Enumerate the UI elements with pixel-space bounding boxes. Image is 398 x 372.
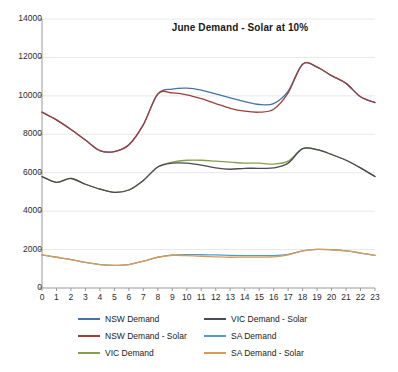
legend-label: VIC Demand - Solar (231, 314, 307, 324)
y-axis-tick-label: 6000 (2, 167, 42, 177)
y-axis-tick-label: 8000 (2, 128, 42, 138)
x-axis-tick-label: 12 (209, 292, 223, 302)
axis-lines (42, 19, 375, 288)
y-axis-tick-label: 10000 (2, 90, 42, 100)
chart-container: June Demand - Solar at 10% 0200040006000… (0, 0, 398, 372)
x-axis-tick-label: 16 (267, 292, 281, 302)
y-axis-tick-label: 14000 (2, 13, 42, 23)
x-axis-tick-label: 21 (339, 292, 353, 302)
legend-color-swatch (78, 318, 100, 320)
x-axis-tick-label: 7 (136, 292, 150, 302)
series-line-nsw-demand (42, 63, 375, 153)
legend-label: SA Demand (231, 331, 276, 341)
legend-item-nsw-demand[interactable]: NSW Demand (78, 310, 198, 327)
series-line-vic-demand (42, 148, 375, 192)
y-axis-tick-label: 12000 (2, 51, 42, 61)
x-axis-tick-label: 5 (107, 292, 121, 302)
x-axis-tick-label: 3 (78, 292, 92, 302)
legend-color-swatch (204, 335, 226, 337)
x-axis-tick-label: 4 (93, 292, 107, 302)
x-axis-tick-label: 20 (325, 292, 339, 302)
legend-label: SA Demand - Solar (231, 348, 304, 358)
series-line-sa-demand-solar (42, 249, 375, 265)
gridlines (42, 19, 375, 250)
y-axis-tick-label: 0 (2, 282, 42, 292)
legend-color-swatch (78, 335, 100, 337)
series-line-nsw-demand-solar (42, 62, 375, 152)
x-axis-tick-label: 22 (354, 292, 368, 302)
legend-color-swatch (78, 352, 100, 354)
legend-item-nsw-demand-solar[interactable]: NSW Demand - Solar (78, 327, 198, 344)
x-axis-tick-label: 1 (49, 292, 63, 302)
legend-label: NSW Demand (105, 314, 159, 324)
legend-color-swatch (204, 352, 226, 354)
legend-color-swatch (204, 318, 226, 320)
legend-item-vic-demand-solar[interactable]: VIC Demand - Solar (204, 310, 354, 327)
x-axis-tick-label: 9 (165, 292, 179, 302)
legend-label: NSW Demand - Solar (105, 331, 187, 341)
x-axis-tick-label: 17 (281, 292, 295, 302)
x-axis-tick-label: 8 (151, 292, 165, 302)
x-axis-tick-label: 23 (368, 292, 382, 302)
x-axis-tick-label: 10 (180, 292, 194, 302)
x-axis-tick-label: 11 (194, 292, 208, 302)
x-axis-tick-label: 18 (296, 292, 310, 302)
legend-label: VIC Demand (105, 348, 154, 358)
x-axis-tick-label: 19 (310, 292, 324, 302)
x-axis-tick-label: 0 (35, 292, 49, 302)
x-axis-tick-label: 2 (64, 292, 78, 302)
x-axis-tick-label: 14 (238, 292, 252, 302)
legend-item-sa-demand[interactable]: SA Demand (204, 327, 354, 344)
legend-item-vic-demand[interactable]: VIC Demand (78, 344, 198, 361)
y-axis-tick-label: 2000 (2, 244, 42, 254)
x-axis-tick-label: 6 (122, 292, 136, 302)
x-axis-tick-label: 13 (223, 292, 237, 302)
axis-ticks (39, 19, 375, 291)
chart-title: June Demand - Solar at 10% (120, 22, 360, 33)
x-axis-tick-label: 15 (252, 292, 266, 302)
chart-legend: NSW DemandVIC Demand - SolarNSW Demand -… (78, 310, 378, 361)
series-line-vic-demand-solar (42, 148, 375, 193)
legend-item-sa-demand-solar[interactable]: SA Demand - Solar (204, 344, 354, 361)
y-axis-tick-label: 4000 (2, 205, 42, 215)
data-series-group (42, 62, 375, 265)
